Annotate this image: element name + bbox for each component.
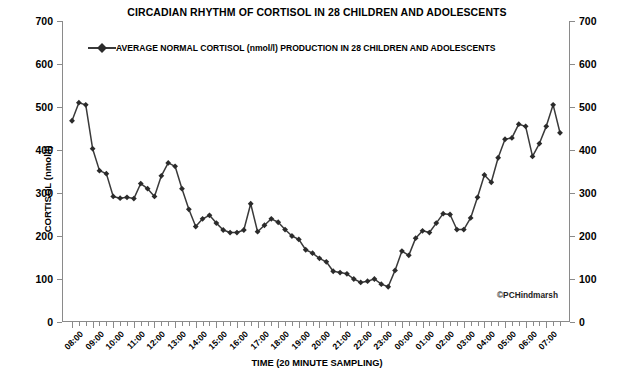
x-tick-23:40 <box>395 322 396 326</box>
y-axis-label-left-700: 700 <box>35 15 53 27</box>
x-axis-label-03:00: 03:00 <box>454 329 477 352</box>
data-point-marker <box>392 268 398 274</box>
data-point-marker <box>186 206 192 212</box>
x-axis-label-06:00: 06:00 <box>516 329 539 352</box>
data-point-marker <box>131 196 137 202</box>
y-tick-left-600 <box>57 64 62 65</box>
y-axis-label-right-500: 500 <box>579 101 597 113</box>
x-tick-22:00 <box>361 322 362 328</box>
data-point-marker <box>172 163 178 169</box>
y-tick-left-400 <box>57 150 62 151</box>
x-tick-16:40 <box>251 322 252 326</box>
x-tick-06:40 <box>539 322 540 326</box>
x-tick-14:00 <box>196 322 197 328</box>
x-axis-label-17:00: 17:00 <box>248 329 271 352</box>
data-point-marker <box>523 123 529 129</box>
x-tick-17:00 <box>258 322 259 328</box>
data-point-marker <box>248 201 254 207</box>
x-tick-11:00 <box>134 322 135 328</box>
x-axis-label-20:00: 20:00 <box>310 329 333 352</box>
y-axis-label-right-200: 200 <box>579 230 597 242</box>
x-tick-11:20 <box>141 322 142 326</box>
x-tick-04:20 <box>491 322 492 326</box>
x-tick-18:20 <box>285 322 286 326</box>
x-tick-19:00 <box>299 322 300 328</box>
data-point-marker <box>234 230 240 236</box>
x-axis-label-21:00: 21:00 <box>331 329 354 352</box>
y-axis-label-right-0: 0 <box>579 316 585 328</box>
x-tick-07:40 <box>560 322 561 326</box>
x-tick-21:20 <box>347 322 348 326</box>
x-axis-title: TIME (20 MINUTE SAMPLING) <box>0 358 634 368</box>
data-point-marker <box>90 146 96 152</box>
x-tick-06:00 <box>526 322 527 328</box>
data-point-marker <box>447 212 453 218</box>
data-point-marker <box>536 141 542 147</box>
plot-area: 0010010020020030030040040050050060060070… <box>62 21 570 322</box>
x-tick-09:20 <box>99 322 100 326</box>
y-axis-label-right-400: 400 <box>579 144 597 156</box>
data-point-marker <box>543 123 549 129</box>
y-axis-label-right-100: 100 <box>579 273 597 285</box>
x-axis-label-14:00: 14:00 <box>186 329 209 352</box>
x-tick-15:40 <box>230 322 231 326</box>
x-tick-07:20 <box>553 322 554 326</box>
x-axis-label-23:00: 23:00 <box>372 329 395 352</box>
x-tick-02:40 <box>457 322 458 326</box>
x-tick-17:40 <box>271 322 272 326</box>
y-tick-right-500 <box>570 107 575 108</box>
data-point-marker <box>502 136 508 142</box>
x-tick-23:00 <box>381 322 382 328</box>
x-tick-19:20 <box>306 322 307 326</box>
y-axis-label-right-600: 600 <box>579 58 597 70</box>
x-tick-11:40 <box>148 322 149 326</box>
y-tick-right-0 <box>570 322 575 323</box>
x-tick-12:00 <box>154 322 155 328</box>
x-axis-label-19:00: 19:00 <box>289 329 312 352</box>
y-axis-title: CORTISOL (nmol/l) <box>42 146 53 233</box>
x-tick-07:00 <box>546 322 547 328</box>
data-point-marker <box>227 230 233 236</box>
data-point-marker <box>557 130 563 136</box>
x-tick-00:40 <box>416 322 417 326</box>
x-tick-14:20 <box>203 322 204 326</box>
x-tick-20:20 <box>326 322 327 326</box>
y-tick-left-0 <box>57 322 62 323</box>
x-tick-19:40 <box>313 322 314 326</box>
y-tick-right-200 <box>570 236 575 237</box>
x-tick-16:20 <box>244 322 245 326</box>
y-tick-left-700 <box>57 21 62 22</box>
x-axis-label-11:00: 11:00 <box>125 329 147 351</box>
data-point-marker <box>365 278 371 284</box>
x-tick-05:40 <box>519 322 520 326</box>
x-tick-08:00 <box>72 322 73 328</box>
data-point-marker <box>158 173 164 179</box>
y-axis-label-left-500: 500 <box>35 101 53 113</box>
x-tick-15:00 <box>216 322 217 328</box>
x-axis-label-10:00: 10:00 <box>104 329 127 352</box>
data-point-marker <box>550 102 556 108</box>
x-tick-09:00 <box>93 322 94 328</box>
x-tick-18:40 <box>292 322 293 326</box>
x-tick-17:20 <box>264 322 265 326</box>
data-point-marker <box>530 154 536 160</box>
chart-title: CIRCADIAN RHYTHM OF CORTISOL IN 28 CHILD… <box>0 6 634 18</box>
y-axis-label-right-300: 300 <box>579 187 597 199</box>
x-tick-03:40 <box>478 322 479 326</box>
y-tick-right-700 <box>570 21 575 22</box>
data-point-marker <box>337 270 343 276</box>
x-axis-label-07:00: 07:00 <box>537 329 560 352</box>
y-tick-right-600 <box>570 64 575 65</box>
series-polyline <box>72 103 560 287</box>
x-axis-label-08:00: 08:00 <box>62 329 85 352</box>
x-axis-label-13:00: 13:00 <box>166 329 189 352</box>
y-tick-right-300 <box>570 193 575 194</box>
x-tick-16:00 <box>237 322 238 328</box>
y-tick-left-500 <box>57 107 62 108</box>
x-tick-04:00 <box>484 322 485 328</box>
data-point-marker <box>165 160 171 166</box>
x-tick-08:40 <box>86 322 87 326</box>
x-tick-00:00 <box>402 322 403 328</box>
x-tick-03:00 <box>464 322 465 328</box>
copyright-watermark: ©PCHindmarsh <box>497 290 558 300</box>
